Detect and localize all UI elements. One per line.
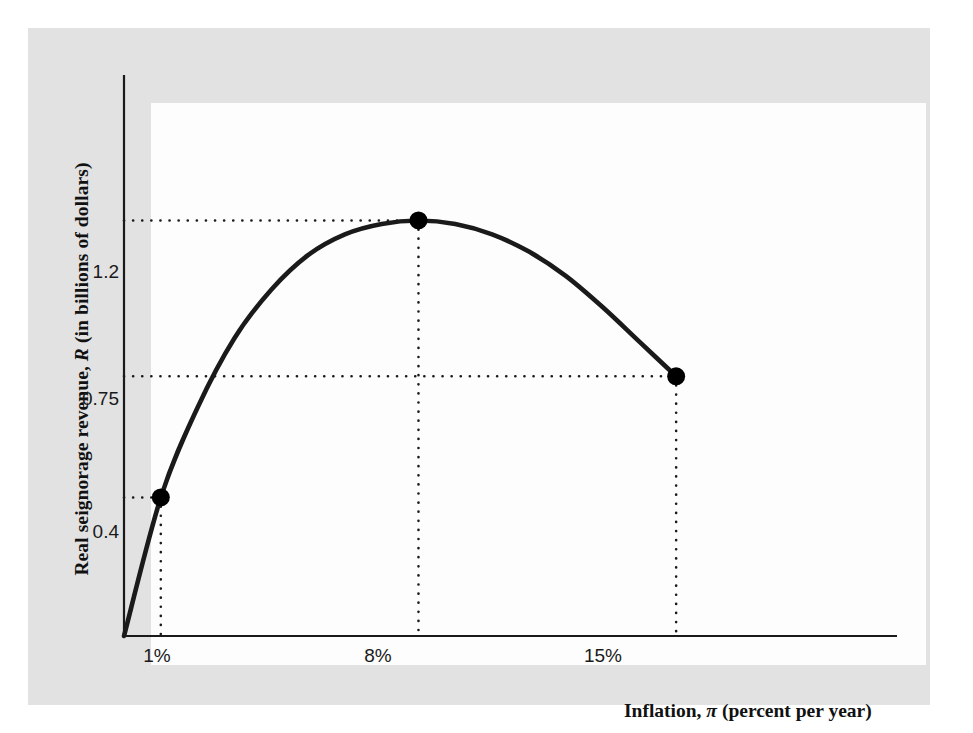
guide-lines-layer	[124, 220, 676, 636]
seignorage-curve	[124, 220, 676, 636]
chart-svg	[0, 0, 973, 733]
data-point-revenue-maximizing-point	[409, 211, 427, 229]
figure-root: Real seignorage revenue, R (in billions …	[0, 0, 973, 733]
curve-layer	[124, 220, 676, 636]
data-point-high-inflation-point	[667, 367, 685, 385]
data-point-low-inflation-point	[152, 488, 170, 506]
axes-layer	[123, 75, 897, 636]
